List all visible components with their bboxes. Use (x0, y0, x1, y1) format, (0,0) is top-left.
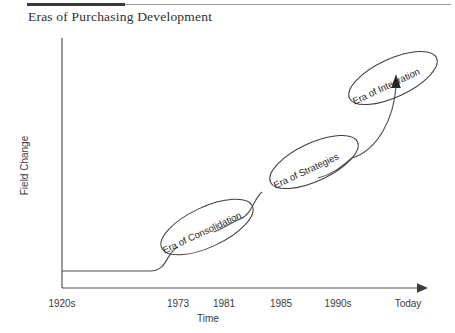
x-tick-label-2: 1981 (213, 298, 235, 309)
y-axis-label: Field Change (19, 121, 30, 211)
x-axis-label: Time (168, 313, 248, 324)
x-tick-label-1: 1973 (167, 298, 189, 309)
x-tick-label-3: 1985 (270, 298, 292, 309)
x-tick-label-5: Today (395, 298, 422, 309)
x-tick-label-0: 1920s (48, 298, 75, 309)
curve-segment-baseline (62, 247, 178, 271)
arrow-right-icon (417, 283, 428, 293)
x-tick-label-4: 1990s (324, 298, 351, 309)
figure-canvas (0, 0, 455, 333)
